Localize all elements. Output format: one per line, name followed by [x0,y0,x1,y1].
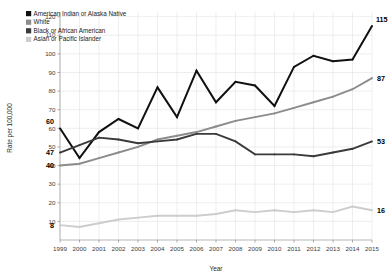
data-point [215,126,217,128]
data-point [274,105,276,107]
data-point [274,112,276,114]
series-end-label-3: 16 [377,206,385,215]
data-point [235,209,237,211]
data-point [98,137,100,139]
data-point [176,139,178,141]
data-point [79,163,81,165]
data-point [313,155,315,157]
data-point [157,215,159,217]
legend-label-3: Asian or Pacific Islander [34,35,102,42]
data-point [157,139,159,141]
y-tick-label: 100 [45,50,56,57]
data-point [215,101,217,103]
data-point [274,153,276,155]
series-end-label-1: 87 [377,74,385,83]
x-tick-label: 2012 [307,245,321,252]
y-tick-label: 20 [49,199,56,206]
data-point [196,70,198,72]
data-point [293,66,295,68]
data-point [293,153,295,155]
data-point [137,127,139,129]
data-point [59,165,61,167]
line-chart: 102030405060708090100110120 199920002001… [0,0,389,273]
series-start-label-1: 40 [46,161,54,170]
data-point [332,96,334,98]
legend-label-0: American Indian or Alaska Native [34,10,127,17]
data-point [176,215,178,217]
data-point [98,222,100,224]
x-tick-label: 2011 [287,245,301,252]
data-point [59,224,61,226]
data-point [196,133,198,135]
data-point [137,217,139,219]
data-point [235,81,237,83]
series-end-label-0: 115 [376,15,388,24]
data-point [332,211,334,213]
y-tick-label: 80 [49,87,56,94]
legend-swatch-2 [26,28,31,33]
x-tick-label: 2005 [170,245,184,252]
x-axis-title: Year [210,265,224,272]
data-point [118,139,120,141]
data-point [137,142,139,144]
data-point [332,152,334,154]
x-tick-label: 2007 [209,245,223,252]
data-point [118,152,120,154]
legend-swatch-1 [26,20,31,25]
data-point [313,209,315,211]
series-end-label-2: 53 [377,137,385,146]
endpoint-value-labels: 6011540874753816 [46,15,388,229]
data-point [254,116,256,118]
y-tick-label: 30 [49,180,56,187]
data-point [157,140,159,142]
data-point [371,25,373,27]
data-point [352,59,354,61]
data-point [254,211,256,213]
data-point [371,209,373,211]
data-point [313,101,315,103]
data-point [98,157,100,159]
legend-swatch-0 [26,11,31,16]
x-tick-label: 2014 [346,245,360,252]
x-tick-label: 2003 [131,245,145,252]
x-tick-label: 2000 [73,245,87,252]
legend-swatch-3 [26,37,31,42]
data-point [176,135,178,137]
legend-label-1: White [34,18,51,25]
x-tick-label: 2006 [190,245,204,252]
data-point [215,133,217,135]
data-point [352,206,354,208]
series-start-label-2: 47 [46,148,54,157]
y-tick-label: 90 [49,69,56,76]
data-point [59,152,61,154]
legend-label-2: Black or African American [34,27,106,34]
y-tick-label: 70 [49,106,56,113]
data-point [235,140,237,142]
series-start-label-3: 8 [50,221,54,230]
x-tick-label: 1999 [53,245,67,252]
data-point [215,213,217,215]
data-point [254,85,256,87]
x-tick-label: 2002 [112,245,126,252]
data-point [59,127,61,129]
data-point [118,219,120,221]
x-tick-label: 2004 [151,245,165,252]
data-point [371,77,373,79]
data-point [196,131,198,133]
x-tick-label: 2008 [229,245,243,252]
y-axis-title: Rate per 100,000 [6,103,14,153]
x-axis-tick-labels: 1999200020012002200320042005200620072008… [53,245,379,252]
data-point [371,140,373,142]
data-point [274,209,276,211]
chart-legend: American Indian or Alaska NativeWhiteBla… [26,10,127,43]
data-point [313,55,315,57]
x-tick-label: 2015 [365,245,379,252]
x-tick-label: 2001 [92,245,106,252]
data-point [79,157,81,159]
data-point [137,146,139,148]
data-point [235,120,237,122]
data-point [176,116,178,118]
data-point [98,131,100,133]
chart-canvas: 102030405060708090100110120 199920002001… [0,0,389,273]
data-point [293,107,295,109]
